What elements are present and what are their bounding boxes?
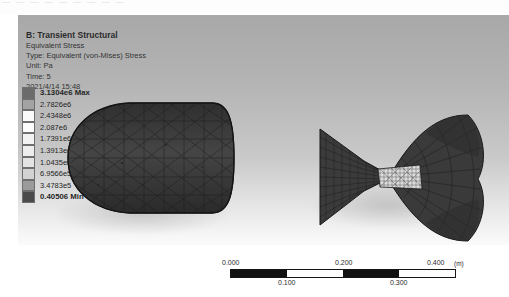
result-subtitle-1: Equivalent Stress — [26, 41, 146, 51]
legend-swatch — [22, 180, 35, 192]
result-unit: Unit: Pa — [26, 61, 146, 71]
result-subtitle-2: Type: Equivalent (von-Mises) Stress — [26, 51, 146, 61]
result-time: Time: 5 — [26, 72, 146, 82]
scale-segment — [343, 270, 399, 277]
scale-bar-segments — [230, 269, 456, 278]
result-title: B: Transient Structural — [26, 30, 146, 41]
cut-off-toolbar-strip: — — — — — — — — — — [0, 0, 509, 14]
scale-bar: 0.000 0.200 0.400 (m) 0.100 0.300 — [230, 262, 456, 292]
legend-swatch — [22, 145, 35, 157]
legend-swatch — [22, 168, 35, 180]
scale-tick-bottom-0: 0.100 — [278, 279, 296, 286]
result-info-block: B: Transient Structural Equivalent Stres… — [26, 30, 146, 92]
scale-segment — [287, 270, 343, 277]
legend-swatch — [22, 191, 35, 203]
legend-swatch — [22, 87, 35, 99]
cut-off-text: — — — — — — — — — — [2, 0, 126, 6]
legend-swatch — [22, 99, 35, 111]
scale-unit-label: (m) — [454, 260, 464, 267]
scale-segment — [231, 270, 287, 277]
scale-segment — [399, 270, 455, 277]
legend-swatch — [22, 110, 35, 122]
scale-tick-top-1: 0.200 — [335, 259, 353, 266]
legend-swatch — [22, 122, 35, 134]
scale-tick-bottom-1: 0.300 — [390, 279, 408, 286]
legend-swatch — [22, 133, 35, 145]
fish-body-pod-mesh[interactable] — [62, 97, 237, 219]
scale-tick-top-0: 0.000 — [222, 259, 240, 266]
legend-swatch — [22, 157, 35, 169]
fish-caudal-fin-mesh[interactable] — [318, 113, 493, 243]
scale-tick-top-2: 0.400 — [427, 259, 445, 266]
result-viewport[interactable]: B: Transient Structural Equivalent Stres… — [18, 15, 509, 245]
